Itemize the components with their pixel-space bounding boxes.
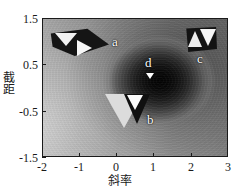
annotation-marker-b: b xyxy=(105,92,151,136)
x-axis-label: 斜率 xyxy=(0,175,240,187)
xtick-label-4: 2 xyxy=(179,161,203,173)
plot-area: a b c d xyxy=(42,18,228,157)
marker-a-down-triangle-icon xyxy=(55,33,77,46)
xtick-label-0: -2 xyxy=(30,161,54,173)
xtick-mark-5 xyxy=(227,153,228,157)
annotation-label-d: d xyxy=(145,56,152,69)
chart-figure: a b c d 1.5 0.5 -0.5 -1.5 截 距 xyxy=(0,0,240,193)
ytick-mark-2 xyxy=(42,111,46,112)
xtick-label-3: 1 xyxy=(141,161,165,173)
marker-a-right-arrow-icon xyxy=(77,40,92,56)
xtick-label-5: 3 xyxy=(216,161,240,173)
annotation-label-c: c xyxy=(197,52,203,65)
xtick-mark-4 xyxy=(191,153,192,157)
marker-d-down-triangle-icon xyxy=(146,73,154,79)
ytick-mark-3 xyxy=(42,157,46,158)
xtick-label-1: -1 xyxy=(67,161,91,173)
xtick-mark-0 xyxy=(42,153,43,157)
marker-c-down-triangle-icon xyxy=(200,29,216,46)
y-axis-label: 截 距 xyxy=(2,72,16,96)
ytick-label-2: -0.5 xyxy=(0,106,38,118)
annotation-marker-d: d xyxy=(139,56,163,86)
xtick-mark-1 xyxy=(79,153,80,157)
annotation-marker-a: a xyxy=(49,27,109,57)
ytick-mark-0 xyxy=(42,18,46,19)
xtick-mark-2 xyxy=(116,153,117,157)
ytick-mark-1 xyxy=(42,64,46,65)
annotation-label-a: a xyxy=(112,35,118,48)
marker-b-inner-triangle-icon xyxy=(127,95,143,110)
ytick-label-0: 1.5 xyxy=(0,13,38,25)
annotation-label-b: b xyxy=(147,113,154,126)
y-axis-label-char-1: 距 xyxy=(2,84,16,96)
xtick-label-2: 0 xyxy=(104,161,128,173)
xtick-mark-3 xyxy=(153,153,154,157)
annotation-marker-c: c xyxy=(185,27,221,61)
ytick-label-1: 0.5 xyxy=(0,59,38,71)
